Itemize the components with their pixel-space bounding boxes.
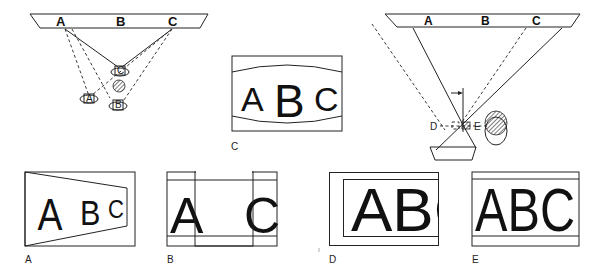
obstruction-icon: [113, 80, 125, 92]
panel-a: A B C A: [25, 172, 135, 265]
panel-b: A C B: [167, 168, 280, 265]
svg-text:B: B: [115, 99, 122, 110]
panel-c: A B C C: [231, 56, 342, 152]
panel-b-letter-c: C: [244, 188, 280, 244]
panel-a-letter-c: C: [108, 194, 124, 223]
svg-text:B: B: [481, 14, 490, 28]
panel-e-label: E: [472, 254, 479, 265]
obstruction-icon: [485, 111, 507, 135]
screen-letter-b: B: [116, 14, 125, 29]
projector-c-icon: C: [111, 65, 129, 76]
svg-text:C: C: [117, 65, 124, 76]
svg-text:C: C: [532, 14, 541, 28]
panel-b-label: B: [167, 254, 174, 265]
screen-letter-a: A: [56, 14, 66, 29]
screen-letter-c: C: [168, 14, 178, 29]
svg-text:A: A: [86, 93, 93, 104]
position-d-marker: [452, 122, 459, 129]
three-projector-diagram: A B C C A B: [30, 14, 208, 110]
position-e-marker: [462, 122, 470, 129]
panel-e-letters: ABC: [475, 175, 575, 244]
offset-projector-diagram: A B C D E: [372, 14, 580, 160]
diagram-canvas: A B C C A B: [0, 0, 614, 274]
position-e-label: E: [474, 121, 481, 132]
panel-c-letter-b: B: [274, 75, 305, 127]
svg-text:A: A: [424, 14, 433, 28]
position-d-label: D: [430, 121, 437, 132]
panel-a-letter-b: B: [80, 193, 100, 233]
projector-b-icon: B: [109, 99, 127, 110]
panel-c-letter-c: C: [314, 80, 339, 118]
panel-a-letter-a: A: [37, 190, 63, 240]
projector-a-icon: A: [80, 93, 98, 104]
panel-e: ABC E: [472, 172, 579, 265]
panel-c-label: C: [231, 141, 238, 152]
panel-b-letter-a: A: [170, 188, 204, 244]
panel-a-label: A: [25, 254, 32, 265]
panel-c-letter-a: A: [241, 80, 264, 118]
panel-d: ABC D: [329, 173, 478, 266]
panel-d-letters: ABC: [351, 175, 478, 244]
panel-d-label: D: [329, 254, 336, 265]
